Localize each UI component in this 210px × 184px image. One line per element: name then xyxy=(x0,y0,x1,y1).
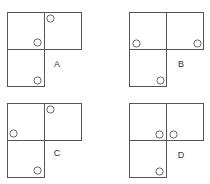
answer-options-diagram: A B C D xyxy=(0,0,210,184)
option-d[interactable]: D xyxy=(130,104,204,178)
option-label: B xyxy=(178,59,184,69)
option-label: D xyxy=(178,150,185,160)
circle-icon xyxy=(156,168,163,175)
circle-icon xyxy=(194,40,201,47)
circle-icon xyxy=(47,15,54,22)
circle-icon xyxy=(10,130,17,137)
option-b[interactable]: B xyxy=(130,13,204,87)
circle-icon xyxy=(34,39,41,46)
circle-icon xyxy=(47,106,54,113)
l-shape-cells xyxy=(8,104,82,178)
circle-icon xyxy=(170,131,177,138)
circle-icon xyxy=(157,77,164,84)
circle-icon xyxy=(133,40,140,47)
circle-icon xyxy=(34,77,41,84)
circle-icon xyxy=(156,131,163,138)
l-shape-cells xyxy=(8,13,82,87)
l-shape-cells xyxy=(130,13,204,87)
option-label: C xyxy=(54,148,61,158)
circle-icon xyxy=(34,167,41,174)
option-label: A xyxy=(54,59,60,69)
option-c[interactable]: C xyxy=(8,104,82,178)
l-shape-cells xyxy=(130,104,204,178)
option-a[interactable]: A xyxy=(8,13,82,87)
